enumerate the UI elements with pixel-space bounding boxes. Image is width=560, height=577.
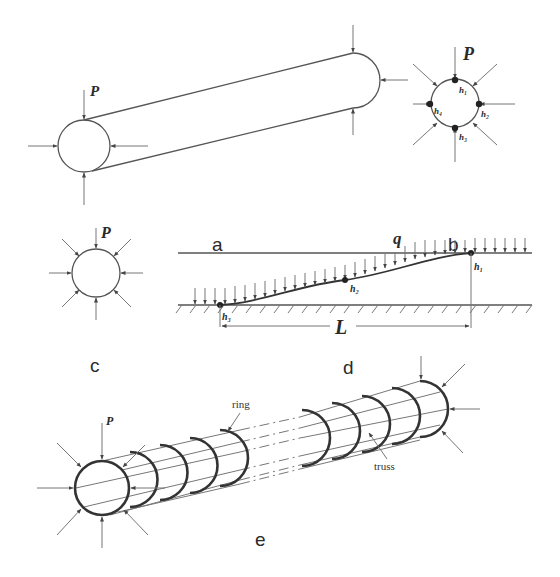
panel-label-e: e — [255, 529, 266, 550]
pipe-end-circle — [58, 120, 110, 172]
annotation-truss: truss — [374, 460, 395, 472]
load-symbol-p-c: P — [100, 224, 111, 241]
point-h1 — [452, 77, 458, 83]
panel-a: P a — [28, 25, 408, 255]
label-h3-b: h₃ — [459, 132, 467, 142]
label-h1-d: h₁ — [474, 261, 483, 272]
panel-b: h₁ h₂ h₃ h₄ P b — [413, 44, 515, 255]
panel-e: P ring truss e — [37, 356, 480, 550]
point-h2 — [476, 101, 482, 107]
load-symbol-p: P — [90, 83, 100, 99]
load-symbol-p-b: P — [462, 44, 475, 64]
panel-label-a: a — [212, 234, 223, 255]
pipe-top-edge — [84, 53, 353, 120]
panel-label-c: c — [90, 355, 100, 376]
pipe-bottom-edge — [92, 108, 353, 171]
figure-canvas: P a h₁ h₂ h₃ h₄ P b — [0, 0, 560, 577]
point-h4 — [427, 101, 433, 107]
rings — [75, 381, 448, 515]
load-symbol-p-e: P — [106, 414, 114, 428]
label-h2-d: h₂ — [350, 283, 359, 294]
panel-label-b: b — [448, 234, 459, 255]
label-h2-b: h₂ — [481, 109, 489, 119]
point-h3 — [452, 125, 458, 131]
length-symbol-l: L — [334, 316, 347, 338]
point-h2-d — [342, 277, 348, 283]
distributed-load-symbol-q: q — [393, 229, 402, 248]
panel-c: P c — [49, 224, 143, 376]
panel-label-d: d — [343, 357, 354, 378]
radial-arrows-e-front — [37, 423, 165, 548]
radial-arrows-e-far — [421, 356, 480, 453]
front-ring — [75, 461, 129, 515]
truss-lines — [76, 381, 448, 515]
section-circle-c — [72, 249, 120, 297]
ring-pointed — [220, 430, 248, 486]
load-arrows-left — [28, 90, 148, 205]
section-circle-b — [431, 79, 479, 127]
label-h4-b: h₄ — [434, 106, 442, 116]
annotation-ring: ring — [232, 398, 250, 410]
label-h1-b: h₁ — [459, 85, 467, 95]
label-h3-d: h₃ — [222, 311, 231, 322]
ring-leader — [228, 413, 240, 431]
radial-arrows-c — [49, 228, 143, 320]
panel-d: h₁ h₂ h₃ L q d — [176, 229, 532, 378]
pipe-far-cap — [353, 53, 380, 108]
